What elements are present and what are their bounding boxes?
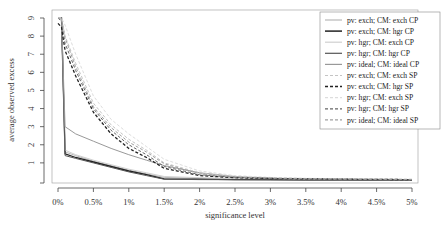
x-tick-label: 1.5% <box>155 197 173 207</box>
x-tick-label: 3.5% <box>297 197 315 207</box>
line-chart: 123456789 0%0.5%1%1.5%2%2.5%3%3.5%4%4.5%… <box>0 0 442 226</box>
x-tick-label: 2.5% <box>226 197 244 207</box>
y-tick-label: 7 <box>26 52 36 56</box>
x-tick-label: 0.5% <box>85 197 103 207</box>
x-tick-label: 5% <box>406 197 417 207</box>
y-axis: 123456789 <box>26 16 44 183</box>
legend-label: pv: exch; CM: hgr CP <box>347 27 414 36</box>
y-tick-label: 9 <box>26 16 36 20</box>
y-tick-label: 1 <box>26 161 36 165</box>
y-tick-label: 8 <box>26 34 36 38</box>
x-tick-label: 4% <box>336 197 347 207</box>
x-axis-title: significance level <box>205 210 265 220</box>
y-tick-label: 3 <box>26 125 36 129</box>
legend-label: pv: hgr; CM: hgr CP <box>347 49 410 58</box>
legend: pv: exch; CM: exch CPpv: exch; CM: hgr C… <box>320 12 440 129</box>
y-axis-title: average observed excess <box>6 58 16 142</box>
x-tick-label: 0% <box>52 197 63 207</box>
x-tick-label: 2% <box>194 197 205 207</box>
legend-label: pv: exch; CM: exch CP <box>347 16 418 25</box>
x-tick-label: 1% <box>123 197 134 207</box>
x-tick-label: 4.5% <box>368 197 386 207</box>
y-tick-label: 5 <box>26 88 36 92</box>
x-tick-label: 3% <box>265 197 276 207</box>
x-axis: 0%0.5%1%1.5%2%2.5%3%3.5%4%4.5%5% <box>52 188 417 207</box>
legend-label: pv: exch; CM: exch SP <box>347 71 417 80</box>
legend-label: pv: hgr; CM: exch CP <box>347 38 414 47</box>
y-tick-label: 4 <box>26 106 36 111</box>
legend-label: pv: hgr; CM: hgr SP <box>347 104 409 113</box>
y-tick-label: 6 <box>26 70 36 74</box>
legend-label: pv: ideal; CM: ideal CP <box>347 60 419 69</box>
legend-label: pv: hgr; CM: exch SP <box>347 93 413 102</box>
legend-label: pv: ideal; CM: ideal SP <box>347 116 418 125</box>
legend-label: pv: exch; CM: hgr SP <box>347 82 413 91</box>
y-tick-label: 2 <box>26 143 36 147</box>
